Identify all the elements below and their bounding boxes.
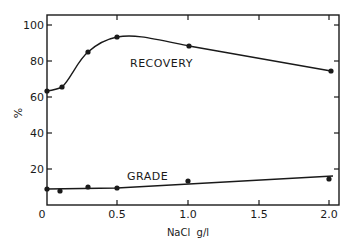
- x-tick-2-0: 2.0: [320, 208, 338, 221]
- grade-label: GRADE: [127, 170, 168, 183]
- y-tick-20: 20: [30, 163, 44, 176]
- recovery-grade-chart: 100 80 60 40 20 0 0.5 1.0 1.5 2.0 NaCl g…: [0, 0, 356, 244]
- x-tick-1-5: 1.5: [250, 208, 268, 221]
- x-tick-0-5: 0.5: [108, 208, 126, 221]
- y-tick-labels: 100 80 60 40 20: [23, 19, 44, 176]
- x-tick-1-0: 1.0: [179, 208, 197, 221]
- y-axis-label: %: [12, 108, 25, 118]
- x-tick-labels: 0 0.5 1.0 1.5 2.0: [39, 208, 338, 221]
- y-tick-60: 60: [30, 91, 44, 104]
- y-tick-100: 100: [23, 19, 44, 32]
- y-tick-40: 40: [30, 127, 44, 140]
- recovery-label: RECOVERY: [130, 57, 193, 70]
- x-axis-label: NaCl g/l: [167, 227, 209, 238]
- y-tick-80: 80: [30, 55, 44, 68]
- x-tick-0: 0: [39, 208, 46, 221]
- plot-frame: [47, 15, 339, 205]
